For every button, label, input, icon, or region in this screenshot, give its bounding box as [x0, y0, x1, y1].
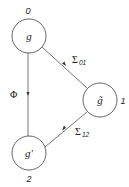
- node-g-index: 0: [25, 6, 30, 16]
- node-g-label: g: [26, 30, 32, 42]
- node-g-prime: g' 2: [12, 136, 46, 184]
- edge-sigma01-subscript: 01: [79, 59, 87, 66]
- edge-sigma01-symbol: Σ: [72, 54, 78, 65]
- arrowhead-phi-icon: [27, 92, 30, 96]
- edge-sigma12-symbol: Σ: [75, 126, 81, 137]
- node-g-tilde: g̃ 1: [83, 83, 126, 117]
- node-g: g 0: [12, 6, 46, 53]
- node-g-prime-label: g': [25, 147, 34, 159]
- node-g-tilde-label: g̃: [97, 94, 103, 106]
- commutative-diagram: g 0 g̃ 1 g' 2 Φ Σ 01 Σ 12: [0, 0, 129, 187]
- edge-sigma01: [42, 47, 87, 88]
- edge-sigma12-label: Σ 12: [75, 126, 90, 138]
- node-g-tilde-index: 1: [120, 96, 125, 106]
- edge-sigma01-label: Σ 01: [72, 54, 87, 66]
- node-g-prime-index: 2: [25, 174, 31, 184]
- edge-sigma12-subscript: 12: [82, 131, 90, 138]
- edge-phi-label: Φ: [10, 89, 17, 100]
